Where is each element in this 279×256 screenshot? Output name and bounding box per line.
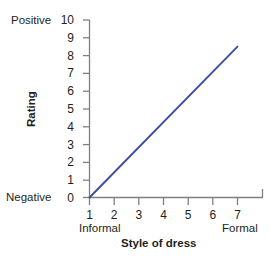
x-tick-label-1: 1 (80, 209, 100, 221)
x-axis-title: Style of dress (121, 238, 196, 250)
y-tick-label-6: 6 (46, 85, 74, 97)
y-axis-low-anchor-label: Negative (6, 192, 51, 204)
data-line-series-0 (90, 47, 238, 198)
x-axis-high-anchor-label: Formal (222, 223, 258, 235)
y-tick-label-9: 9 (46, 32, 74, 44)
y-axis-title: Rating (26, 91, 38, 127)
x-tick-label-6: 6 (203, 209, 223, 221)
y-axis-ticks (83, 20, 90, 198)
x-tick-label-5: 5 (178, 209, 198, 221)
x-tick-label-3: 3 (129, 209, 149, 221)
y-tick-label-4: 4 (46, 121, 74, 133)
y-tick-label-7: 7 (46, 67, 74, 79)
chart-container: 10 9 8 7 6 5 4 3 2 1 0 Positive Negative… (0, 0, 279, 256)
x-tick-label-2: 2 (104, 209, 124, 221)
y-tick-label-5: 5 (46, 103, 74, 115)
x-tick-label-7: 7 (228, 209, 248, 221)
y-tick-label-2: 2 (46, 156, 74, 168)
y-tick-label-1: 1 (46, 174, 74, 186)
y-tick-label-3: 3 (46, 139, 74, 151)
y-tick-label-8: 8 (46, 50, 74, 62)
x-axis-low-anchor-label: Informal (79, 223, 121, 235)
x-tick-label-4: 4 (154, 209, 174, 221)
x-axis-ticks (90, 198, 238, 205)
y-axis-high-anchor-label: Positive (11, 15, 51, 27)
